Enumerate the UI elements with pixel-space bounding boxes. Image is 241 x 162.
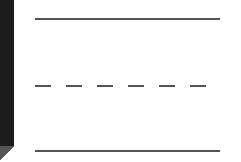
line-style-option-dashed[interactable] <box>35 80 215 92</box>
line-style-option-solid-top[interactable] <box>35 13 220 25</box>
line-style-option-solid-bottom[interactable] <box>35 145 220 157</box>
sidebar-corner-icon <box>0 146 14 162</box>
dashed-line-icon <box>35 84 215 88</box>
solid-line-icon <box>35 150 220 152</box>
solid-line-icon <box>35 18 220 20</box>
sidebar-panel-edge <box>0 0 14 146</box>
